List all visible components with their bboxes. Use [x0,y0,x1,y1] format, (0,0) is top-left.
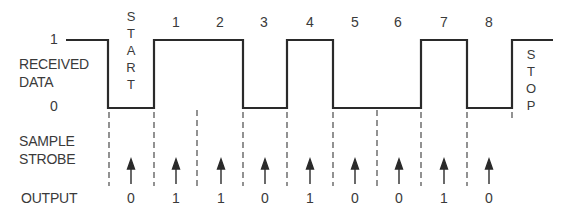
sample-strobe-arrows [128,159,493,184]
start-letter: T [124,27,138,41]
arrow-up-icon [218,159,225,184]
level-high-label: 1 [50,31,58,47]
sample-strobe-label-line1: SAMPLE [19,133,75,149]
output-value: 1 [300,190,320,206]
received-data-waveform [66,40,553,108]
stop-letter: S [524,48,538,62]
start-letter: S [124,10,138,24]
start-letter: R [124,61,138,75]
level-low-label: 0 [50,98,58,114]
bit-number: 3 [254,14,274,30]
output-value: 1 [211,190,231,206]
output-value: 0 [255,190,275,206]
bit-number: 7 [434,14,454,30]
arrow-up-icon [262,159,269,184]
arrow-up-icon [173,159,180,184]
output-value: 0 [479,190,499,206]
start-letter: A [124,44,138,58]
stop-letter: O [524,82,538,96]
output-value: 0 [389,190,409,206]
received-data-label-line2: DATA [19,74,53,90]
output-value: 1 [166,190,186,206]
arrow-up-icon [441,159,448,184]
arrow-up-icon [396,159,403,184]
arrow-up-icon [352,159,359,184]
bit-number: 4 [300,14,320,30]
output-value: 1 [434,190,454,206]
bit-number: 1 [166,14,186,30]
output-label: OUTPUT [21,190,77,206]
stop-letter: P [524,99,538,113]
arrow-up-icon [486,159,493,184]
output-value: 0 [121,190,141,206]
output-value: 0 [345,190,365,206]
stop-letter: T [524,65,538,79]
bit-number: 8 [479,14,499,30]
bit-number: 2 [210,14,230,30]
arrow-up-icon [128,159,135,184]
arrow-up-icon [307,159,314,184]
bit-number: 5 [345,14,365,30]
serial-timing-diagram [0,0,569,222]
bit-number: 6 [388,14,408,30]
start-letter: T [124,78,138,92]
sample-strobe-label-line2: STROBE [19,151,75,167]
received-data-label-line1: RECEIVED [19,56,89,72]
